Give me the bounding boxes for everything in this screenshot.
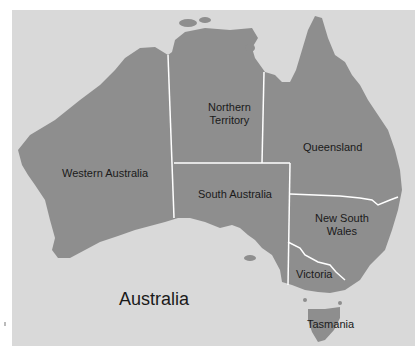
mainland-outline — [18, 16, 402, 293]
label-queensland: Queensland — [303, 141, 362, 154]
map-title: Australia — [119, 289, 189, 309]
melville-island — [179, 19, 197, 27]
label-northern-territory: Northern Territory — [208, 101, 251, 127]
bathurst-island — [199, 17, 211, 23]
label-tasmania: Tasmania — [307, 318, 354, 331]
kangaroo-island — [244, 255, 256, 261]
label-south-australia: South Australia — [198, 188, 272, 201]
label-victoria: Victoria — [296, 268, 332, 281]
label-western-australia: Western Australia — [62, 167, 148, 180]
groote-island — [245, 44, 255, 52]
label-new-south-wales: New South Wales — [315, 212, 369, 238]
